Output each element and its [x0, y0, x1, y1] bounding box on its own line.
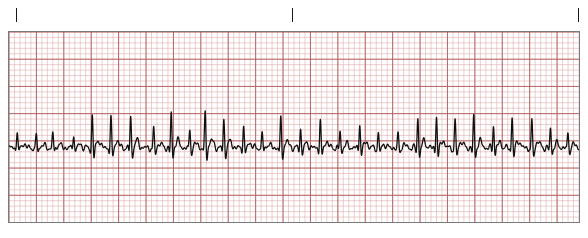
ecg-trace [9, 32, 579, 222]
timing-tick-1 [16, 8, 17, 22]
timing-tick-row [0, 0, 588, 30]
ecg-strip [8, 31, 580, 223]
timing-tick-3 [578, 8, 579, 22]
timing-tick-2 [292, 8, 293, 22]
ecg-page: Rhythm strip ECG recording Irregularly i… [0, 0, 588, 238]
